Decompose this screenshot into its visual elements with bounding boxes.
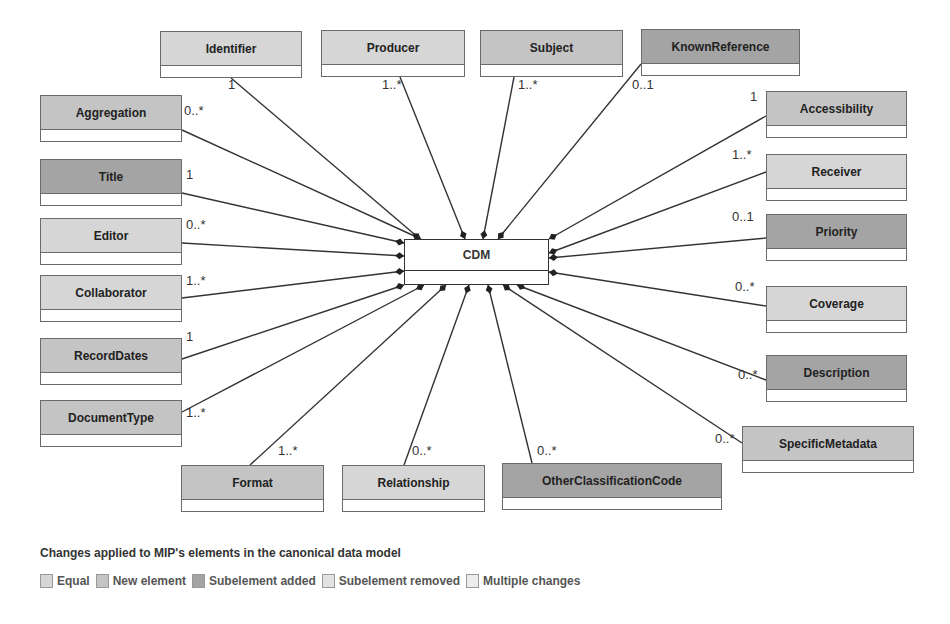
class-attributes: [41, 435, 181, 446]
composition-diamond-icon: [549, 234, 557, 240]
class-attributes: [503, 498, 721, 509]
class-name: Coverage: [767, 287, 906, 321]
composition-diamond-icon: [503, 285, 511, 291]
class-description[interactable]: Description: [766, 355, 907, 402]
class-attributes: [767, 126, 906, 137]
class-name: Format: [182, 466, 323, 500]
multiplicity-label: 1: [186, 167, 193, 182]
class-otherclassificationcode[interactable]: OtherClassificationCode: [502, 463, 722, 510]
class-name: RecordDates: [41, 339, 181, 373]
association-documenttype: [182, 285, 424, 412]
multiplicity-label: 0..1: [632, 77, 654, 92]
class-name: Producer: [322, 31, 464, 65]
legend-swatch-icon: [466, 574, 479, 588]
multiplicity-label: 1..*: [382, 77, 402, 92]
composition-diamond-icon: [395, 268, 404, 275]
class-accessibility[interactable]: Accessibility: [766, 91, 907, 138]
legend-item-equal: Equal: [40, 574, 90, 588]
multiplicity-label: 1..*: [186, 273, 206, 288]
class-title[interactable]: Title: [40, 159, 182, 206]
class-documenttype[interactable]: DocumentType: [40, 400, 182, 447]
association-identifier: [231, 78, 420, 239]
class-attributes: [767, 390, 906, 401]
composition-diamond-icon: [464, 285, 471, 293]
class-name: Aggregation: [41, 96, 181, 130]
class-producer[interactable]: Producer: [321, 30, 465, 77]
class-format[interactable]: Format: [181, 465, 324, 512]
multiplicity-label: 1..*: [278, 443, 298, 458]
class-name: OtherClassificationCode: [503, 464, 721, 498]
legend-label: Subelement removed: [339, 574, 460, 588]
multiplicity-label: 0..*: [715, 431, 735, 446]
legend-item-multiple-changes: Multiple changes: [466, 574, 580, 588]
composition-diamond-icon: [549, 269, 558, 276]
class-aggregation[interactable]: Aggregation: [40, 95, 182, 142]
cdm-class-name: CDM: [405, 240, 548, 271]
multiplicity-label: 1: [186, 329, 193, 344]
class-attributes: [41, 253, 181, 264]
class-attributes: [41, 130, 181, 141]
class-attributes: [41, 310, 181, 321]
legend-label: New element: [113, 574, 186, 588]
composition-diamond-icon: [395, 252, 404, 259]
association-aggregation: [182, 130, 421, 239]
class-relationship[interactable]: Relationship: [342, 465, 485, 512]
legend-label: Subelement added: [209, 574, 316, 588]
multiplicity-label: 0..*: [186, 217, 206, 232]
legend-label: Multiple changes: [483, 574, 580, 588]
class-recorddates[interactable]: RecordDates: [40, 338, 182, 385]
class-identifier[interactable]: Identifier: [160, 31, 302, 78]
class-attributes: [767, 249, 906, 260]
class-attributes: [182, 500, 323, 511]
association-editor: [182, 243, 404, 256]
class-attributes: [767, 321, 906, 332]
legend-item-new-element: New element: [96, 574, 186, 588]
multiplicity-label: 1..*: [518, 77, 538, 92]
legend-swatch-icon: [322, 574, 335, 588]
class-attributes: [322, 65, 464, 76]
legend-title: Changes applied to MIP's elements in the…: [40, 546, 401, 560]
class-specificmetadata[interactable]: SpecificMetadata: [742, 426, 914, 473]
class-coverage[interactable]: Coverage: [766, 286, 907, 333]
multiplicity-label: 1: [228, 77, 235, 92]
class-attributes: [343, 500, 484, 511]
association-format: [250, 285, 446, 465]
class-knownreference[interactable]: KnownReference: [641, 29, 800, 76]
class-editor[interactable]: Editor: [40, 218, 182, 265]
legend-swatch-icon: [40, 574, 53, 588]
composition-diamond-icon: [439, 285, 446, 291]
multiplicity-label: 0..1: [732, 209, 754, 224]
class-name: KnownReference: [642, 30, 799, 64]
association-description: [517, 285, 766, 380]
association-otherclassificationcode: [488, 285, 532, 463]
legend-label: Equal: [57, 574, 90, 588]
class-subject[interactable]: Subject: [480, 30, 623, 77]
class-receiver[interactable]: Receiver: [766, 154, 907, 201]
composition-diamond-icon: [486, 285, 493, 294]
class-name: Identifier: [161, 32, 301, 66]
multiplicity-label: 0..*: [735, 279, 755, 294]
class-attributes: [743, 461, 913, 472]
cdm-class[interactable]: CDM: [404, 239, 549, 285]
association-title: [182, 193, 404, 243]
association-producer: [400, 77, 465, 239]
class-collaborator[interactable]: Collaborator: [40, 275, 182, 322]
composition-diamond-icon: [498, 232, 504, 239]
legend: EqualNew elementSubelement addedSubeleme…: [40, 574, 586, 588]
class-name: Title: [41, 160, 181, 194]
association-subject: [483, 77, 514, 239]
class-name: Description: [767, 356, 906, 390]
multiplicity-label: 0..*: [184, 103, 204, 118]
class-name: Accessibility: [767, 92, 906, 126]
class-attributes: [767, 189, 906, 200]
association-specificmetadata: [503, 285, 742, 443]
legend-item-subelement-removed: Subelement removed: [322, 574, 460, 588]
class-attributes: [41, 373, 181, 384]
composition-diamond-icon: [480, 230, 487, 239]
multiplicity-label: 1: [750, 89, 757, 104]
association-collaborator: [182, 271, 404, 298]
class-priority[interactable]: Priority: [766, 214, 907, 261]
multiplicity-label: 0..*: [537, 443, 557, 458]
multiplicity-label: 0..*: [738, 367, 758, 382]
multiplicity-label: 1..*: [186, 405, 206, 420]
